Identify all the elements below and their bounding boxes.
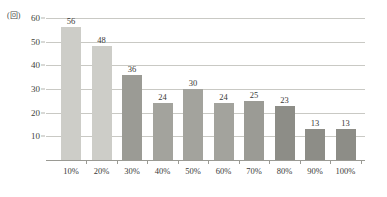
- bar-value-label: 13: [331, 119, 361, 128]
- bar-value-label: 25: [239, 91, 269, 100]
- y-axis-tick-label: 60: [31, 14, 40, 23]
- bar-series: 56483624302425231313: [46, 18, 365, 160]
- x-axis-tick-mark: [86, 161, 87, 164]
- bar-value-label: 23: [270, 96, 300, 105]
- x-axis-tick-mark: [147, 161, 148, 164]
- x-axis: 10%20%30%40%50%60%70%80%90%100%: [46, 161, 365, 183]
- x-axis-tick-mark: [178, 161, 179, 164]
- y-axis-tick-label: 30: [31, 85, 40, 94]
- x-axis-tick-label: 100%: [326, 166, 366, 176]
- x-axis-tick-mark: [300, 161, 301, 164]
- bar: [244, 101, 264, 160]
- x-axis-tick-mark: [269, 161, 270, 164]
- plot-area: 605040302010 56483624302425231313: [46, 18, 365, 160]
- y-axis-tick-mark: [41, 89, 45, 90]
- x-axis-tick-mark: [330, 161, 331, 164]
- bar: [183, 89, 203, 160]
- x-axis-tick-mark: [361, 161, 362, 164]
- y-axis-tick-mark: [41, 65, 45, 66]
- bar-value-label: 30: [178, 79, 208, 88]
- y-axis-tick-mark: [41, 18, 45, 19]
- y-axis-tick-mark: [41, 112, 45, 113]
- y-axis-tick-label: 20: [31, 108, 40, 117]
- x-axis-tick-mark: [117, 161, 118, 164]
- bar-value-label: 13: [300, 119, 330, 128]
- bar-value-label: 24: [148, 93, 178, 102]
- x-axis-tick-mark: [239, 161, 240, 164]
- y-axis-tick-label: 10: [31, 132, 40, 141]
- bar: [61, 27, 81, 160]
- y-axis-tick-label: 40: [31, 61, 40, 70]
- bar: [275, 106, 295, 160]
- bar: [214, 103, 234, 160]
- bar: [92, 46, 112, 160]
- y-axis-tick-label: 50: [31, 37, 40, 46]
- bar: [336, 129, 356, 160]
- y-axis-tick-mark: [41, 41, 45, 42]
- y-axis-tick-mark: [41, 136, 45, 137]
- bar-value-label: 48: [87, 36, 117, 45]
- y-axis-unit-label: (回): [7, 11, 20, 21]
- bar-chart: (回) 605040302010 56483624302425231313 10…: [0, 0, 387, 197]
- bar-value-label: 36: [117, 65, 147, 74]
- bar: [153, 103, 173, 160]
- bar: [122, 75, 142, 160]
- bar-value-label: 56: [56, 17, 86, 26]
- bar-value-label: 24: [209, 93, 239, 102]
- bar: [305, 129, 325, 160]
- x-axis-tick-mark: [208, 161, 209, 164]
